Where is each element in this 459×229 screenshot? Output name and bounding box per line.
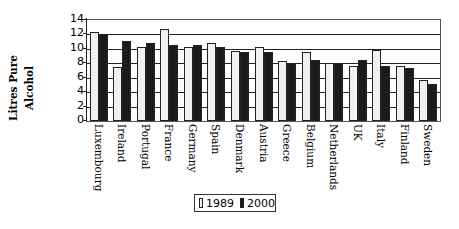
legend: 1989 2000 xyxy=(194,194,276,212)
plot-area xyxy=(87,19,441,122)
bar-2000 xyxy=(381,66,390,121)
gridline xyxy=(87,34,440,35)
x-tick-label: Denmark xyxy=(234,124,246,173)
y-tick-label: 14 xyxy=(70,12,84,25)
bar-1989 xyxy=(113,67,122,121)
x-tick-label: Sweden xyxy=(422,124,434,166)
legend-swatch-1989 xyxy=(199,198,203,208)
bar-1989 xyxy=(137,47,146,121)
bar-1989 xyxy=(349,66,358,121)
x-tick-label: UK xyxy=(352,124,364,141)
bar-2000 xyxy=(428,84,437,122)
x-tick-label: Belgium xyxy=(305,124,317,168)
y-tick-label: 0 xyxy=(70,113,84,126)
y-tick-label: 12 xyxy=(70,26,84,39)
x-tick-label: France xyxy=(163,124,175,161)
y-label-line1: Litres Pure xyxy=(7,43,19,133)
bar-1989 xyxy=(372,50,381,121)
bar-1989 xyxy=(278,61,287,121)
bar-2000 xyxy=(358,60,367,121)
bar-2000 xyxy=(193,45,202,121)
bar-2000 xyxy=(122,41,131,121)
bar-1989 xyxy=(255,47,264,121)
y-tick-label: 6 xyxy=(70,70,84,83)
y-tick-label: 2 xyxy=(70,99,84,112)
bar-1989 xyxy=(90,32,99,121)
bar-2000 xyxy=(405,68,414,121)
legend-label-2000: 2000 xyxy=(247,197,275,210)
bar-1989 xyxy=(184,47,193,121)
x-tick-label: Luxembourg xyxy=(93,124,105,191)
bar-2000 xyxy=(146,43,155,121)
legend-swatch-2000 xyxy=(240,198,244,208)
x-tick-label: Portugal xyxy=(140,124,152,169)
x-tick-label: Netherlands xyxy=(328,124,340,190)
y-axis-label: Litres Pure Alcohol xyxy=(6,60,66,120)
bar-2000 xyxy=(334,63,343,121)
bar-2000 xyxy=(216,47,225,121)
bar-1989 xyxy=(302,52,311,121)
chart: Litres Pure Alcohol 02468101214 Luxembou… xyxy=(0,0,459,229)
bar-1989 xyxy=(207,43,216,121)
x-tick-label: Ireland xyxy=(116,124,128,162)
bar-2000 xyxy=(99,34,108,121)
bar-1989 xyxy=(160,29,169,121)
bar-2000 xyxy=(287,63,296,121)
x-tick-label: Spain xyxy=(210,124,222,154)
x-tick-label: Germany xyxy=(187,124,199,173)
bar-2000 xyxy=(264,52,273,121)
bar-1989 xyxy=(396,66,405,121)
bar-1989 xyxy=(325,63,334,121)
y-tick-label: 8 xyxy=(70,55,84,68)
y-tick-label: 10 xyxy=(70,41,84,54)
bar-1989 xyxy=(419,80,428,121)
bar-2000 xyxy=(169,45,178,121)
legend-label-1989: 1989 xyxy=(206,197,234,210)
y-tick-label: 4 xyxy=(70,84,84,97)
bar-2000 xyxy=(311,60,320,121)
x-tick-label: Austria xyxy=(258,124,270,163)
x-tick-label: Italy xyxy=(375,124,387,148)
y-label-line2: Alcohol xyxy=(23,43,35,133)
x-tick-label: Greece xyxy=(281,124,293,162)
bar-2000 xyxy=(240,52,249,121)
bar-1989 xyxy=(231,51,240,121)
x-tick-label: Finland xyxy=(399,124,411,165)
